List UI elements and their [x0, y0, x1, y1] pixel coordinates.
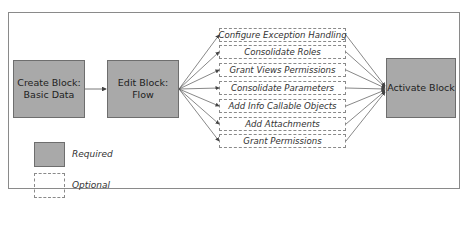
create-block-node: Create Block: Basic Data — [13, 60, 85, 118]
edit-block-node: Edit Block: Flow — [107, 60, 179, 118]
optional-step-add-attachments: Add Attachments — [219, 117, 346, 131]
activate-block-node: Activate Block — [386, 58, 456, 118]
optional-step-consolidate-roles: Consolidate Roles — [219, 45, 346, 59]
optional-step-consolidate-parameters: Consolidate Parameters — [219, 81, 346, 95]
legend-required-swatch — [34, 142, 65, 167]
activate-block-label: Activate Block — [387, 82, 455, 94]
optional-step-configure-exception-handling: Configure Exception Handling — [219, 28, 346, 42]
optional-step-grant-permissions: Grant Permissions — [219, 134, 346, 148]
create-block-label-1: Create Block: — [17, 77, 80, 89]
optional-step-grant-views-permissions: Grant Views Permissions — [219, 63, 346, 77]
edit-block-label-1: Edit Block: — [118, 77, 168, 89]
legend-optional-label: Optional — [72, 180, 110, 190]
legend-required-label: Required — [72, 149, 113, 159]
edit-block-label-2: Flow — [118, 89, 168, 101]
create-block-label-2: Basic Data — [17, 89, 80, 101]
optional-step-add-info-callable-objects: Add Info Callable Objects — [219, 99, 346, 113]
legend-optional-swatch — [34, 173, 65, 198]
